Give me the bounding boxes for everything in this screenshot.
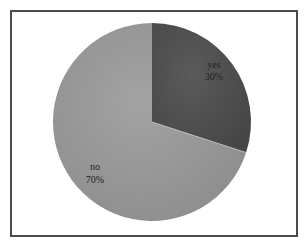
slice-label-yes-name: yes — [207, 59, 220, 70]
slice-label-yes-percent: 30% — [205, 71, 223, 82]
slice-label-no-percent: 70% — [86, 174, 104, 185]
slice-label-no-name: no — [90, 161, 100, 172]
pie-chart: yes 30% no 70% — [0, 0, 305, 244]
